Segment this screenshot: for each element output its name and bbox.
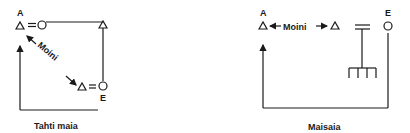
male-triangle-icon bbox=[259, 22, 267, 29]
label-e-left: E bbox=[100, 93, 106, 103]
diagram-maisaia: A Moini E Maisaia bbox=[259, 8, 392, 132]
caption-right: Maisaia bbox=[308, 122, 342, 132]
female-circle-icon bbox=[384, 22, 392, 30]
kinship-diagrams: A E Moini Tahti maia A Moini bbox=[0, 0, 410, 133]
diagram-tahti-maia: A E Moini Tahti maia bbox=[16, 8, 107, 131]
relation-label-left: Moini bbox=[36, 40, 60, 63]
label-a-left: A bbox=[17, 8, 24, 18]
female-circle-icon bbox=[99, 82, 107, 90]
caption-left: Tahti maia bbox=[34, 121, 79, 131]
arrow-icon bbox=[66, 76, 76, 85]
arrow-icon bbox=[27, 36, 36, 44]
label-a-right: A bbox=[260, 8, 267, 18]
label-e-right: E bbox=[385, 8, 391, 18]
female-circle-icon bbox=[38, 21, 46, 29]
relation-label-right: Moini bbox=[283, 22, 307, 32]
male-triangle-icon bbox=[16, 22, 24, 29]
male-triangle-icon bbox=[78, 83, 86, 90]
male-triangle-icon bbox=[331, 22, 339, 29]
